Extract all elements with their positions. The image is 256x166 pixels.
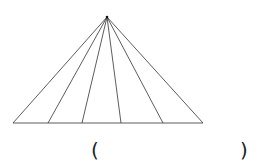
ray-segment-3	[107, 17, 121, 123]
ray-segment-1	[48, 17, 107, 123]
ray-segment-0	[13, 17, 107, 123]
answer-close-paren: )	[240, 140, 248, 160]
ray-segment-2	[82, 17, 107, 123]
apex-point	[106, 16, 109, 19]
answer-open-paren: (	[91, 140, 99, 160]
triangle-diagram	[0, 0, 256, 166]
